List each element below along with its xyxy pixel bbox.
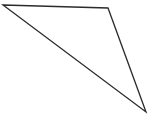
canvas-background xyxy=(0,0,156,125)
triangle-svg xyxy=(0,0,156,125)
figure-canvas xyxy=(0,0,156,125)
